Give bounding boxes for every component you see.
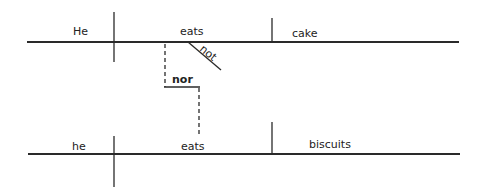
sentence-diagram: He eats cake not nor he eats biscuits	[0, 0, 482, 196]
top-subject: He	[73, 25, 88, 38]
top-clause: He eats cake not	[27, 12, 459, 70]
top-object: cake	[292, 27, 318, 40]
bottom-object: biscuits	[309, 138, 351, 151]
top-modifier: not	[197, 42, 220, 64]
bottom-subject: he	[72, 140, 86, 153]
bottom-clause: he eats biscuits	[28, 122, 460, 187]
conjunction-connector: nor	[164, 44, 200, 134]
conjunction-word: nor	[172, 73, 193, 86]
bottom-verb: eats	[181, 140, 205, 153]
top-verb: eats	[180, 25, 204, 38]
